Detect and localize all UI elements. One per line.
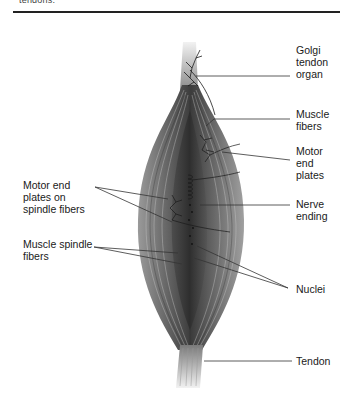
label-tendon: Tendon xyxy=(296,355,330,367)
label-nerve-ending: Nerve ending xyxy=(296,198,328,222)
muscle-belly xyxy=(138,85,244,350)
label-nuclei: Nuclei xyxy=(296,283,325,295)
label-motor-end-plates-on-spindle-fibers: Motor end plates on spindle fibers xyxy=(23,179,85,215)
label-motor-end-plates: Motor end plates xyxy=(296,145,324,181)
label-muscle-spindle-fibers: Muscle spindle fibers xyxy=(23,238,92,262)
label-muscle-fibers: Muscle fibers xyxy=(296,108,329,132)
lower-tendon xyxy=(176,345,203,388)
label-golgi-tendon-organ: Golgi tendon organ xyxy=(296,44,328,80)
